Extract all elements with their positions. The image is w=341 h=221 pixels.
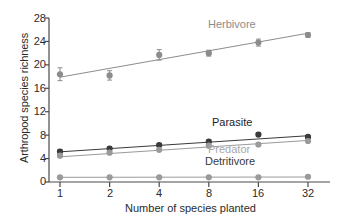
series-label-herbivore: Herbivore <box>208 18 256 30</box>
y-tick-label-20: 20 <box>24 59 46 70</box>
x-tick-label-8: 8 <box>196 188 222 199</box>
x-tick-label-2: 2 <box>97 188 123 199</box>
y-tick-label-24: 24 <box>24 36 46 47</box>
y-tick-label-12: 12 <box>24 106 46 117</box>
axis-lines <box>45 18 330 187</box>
series-label-predator: Predator <box>208 143 250 155</box>
x-axis-label: Number of species planted <box>48 202 333 214</box>
y-tick-label-4: 4 <box>24 153 46 164</box>
y-tick-label-0: 0 <box>24 176 46 187</box>
x-tick-label-16: 16 <box>245 188 271 199</box>
series-label-detritivore: Detritivore <box>205 155 255 167</box>
fit-lines <box>60 33 308 177</box>
chart-figure: Arthropod species richness 28 24 20 16 1… <box>0 0 341 221</box>
series-label-parasite: Parasite <box>212 116 252 128</box>
x-tick-label-1: 1 <box>47 188 73 199</box>
y-tick-label-28: 28 <box>24 13 46 24</box>
x-tick-label-4: 4 <box>146 188 172 199</box>
data-points <box>57 32 311 181</box>
y-tick-label-8: 8 <box>24 130 46 141</box>
x-tick-label-32: 32 <box>295 188 321 199</box>
y-tick-label-16: 16 <box>24 83 46 94</box>
